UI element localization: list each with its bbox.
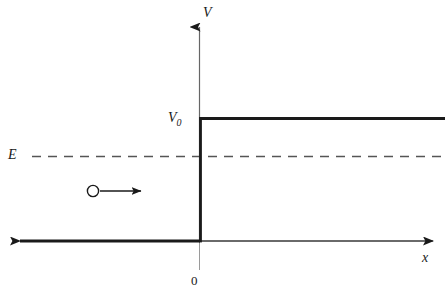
particle-circle (87, 185, 98, 196)
x-axis-label: x (422, 251, 428, 265)
v-axis-label: V (203, 6, 212, 20)
origin-label: 0 (191, 274, 198, 287)
potential-step-diagram: V V0 E x 0 (0, 0, 445, 296)
diagram-canvas (0, 0, 445, 296)
energy-level-label: E (8, 148, 17, 162)
v0-base: V (168, 110, 177, 125)
v0-subscript: 0 (177, 117, 182, 128)
v0-level-label: V0 (168, 111, 182, 128)
